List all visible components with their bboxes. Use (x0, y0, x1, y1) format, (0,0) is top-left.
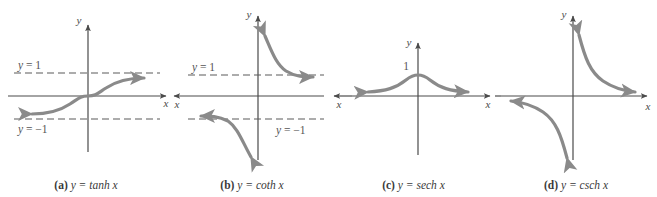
x-axis-label: x (163, 97, 169, 109)
curve-csch-left (511, 101, 567, 158)
y-axis-label: y (561, 8, 567, 20)
panel-caption-csch: (d) y = csch x (495, 179, 657, 191)
panel-caption-coth: (b) y = coth x (172, 179, 332, 191)
caption-index-a: (a) (54, 179, 67, 191)
panel-tanh: y x y = 1 y = −1 (a) y = tanh x (0, 0, 172, 197)
x-axis-label-right: x (485, 98, 491, 110)
panel-caption-tanh: (a) y = tanh x (0, 179, 172, 191)
peak-value-label: 1 (403, 60, 409, 72)
asymptote-label-lower: y = −1 (17, 123, 48, 136)
y-axis-label: y (406, 36, 412, 48)
caption-index-b: (b) (220, 179, 234, 191)
curve-coth-left (201, 116, 251, 157)
panel-tanh-plot: y x y = 1 y = −1 (0, 0, 172, 175)
y-axis-label: y (246, 8, 252, 20)
hyperbolic-functions-figure: y x y = 1 y = −1 (a) y = tanh x (0, 0, 657, 197)
x-axis-label: x (174, 98, 180, 110)
caption-formula-d: y = csch x (561, 179, 608, 191)
panel-caption-sech: (c) y = sech x (332, 179, 495, 191)
y-axis-label: y (76, 14, 82, 26)
x-axis-label: x (645, 100, 651, 112)
panel-csch-plot: y x (495, 0, 657, 175)
curve-coth-right (265, 36, 313, 77)
caption-formula-b: y = coth x (237, 179, 283, 191)
asymptote-label-upper: y = 1 (17, 59, 41, 72)
caption-index-d: (d) (544, 179, 558, 191)
caption-formula-c: y = sech x (398, 179, 445, 191)
x-axis-label-left: x (336, 98, 342, 110)
asymptote-label-upper: y = 1 (191, 61, 215, 74)
caption-index-c: (c) (382, 179, 395, 191)
panel-coth-plot: y x y = 1 y = −1 (172, 0, 332, 175)
curve-csch-right (579, 35, 635, 92)
panel-sech-plot: y x x 1 (332, 0, 495, 175)
panel-csch: y x (d) y = csch x (495, 0, 657, 197)
asymptote-label-lower: y = −1 (275, 124, 306, 137)
panel-coth: y x y = 1 y = −1 (b) y = coth x (172, 0, 332, 197)
caption-formula-a: y = tanh x (71, 179, 118, 191)
panel-sech: y x x 1 (c) y = sech x (332, 0, 495, 197)
